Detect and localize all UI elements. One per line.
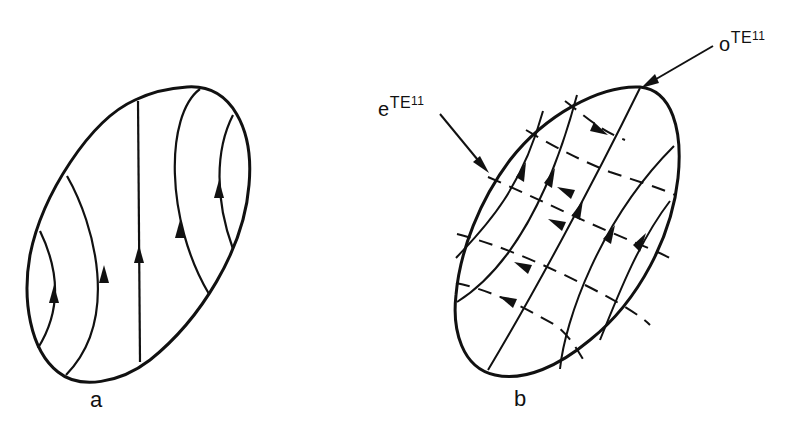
arrow-up-icon bbox=[214, 180, 224, 198]
arrow-up-left-icon bbox=[499, 296, 517, 308]
panel-b-label: b bbox=[514, 386, 526, 412]
field-line-a3 bbox=[138, 101, 140, 362]
annotation-oTE11: oTE11 bbox=[719, 33, 766, 56]
arrow-up-left-icon bbox=[514, 262, 532, 274]
arrow-up-left-icon bbox=[548, 219, 566, 231]
annotation-mode: TE11 bbox=[731, 29, 766, 46]
field-line-a1 bbox=[38, 231, 55, 348]
dashed-line-b5 bbox=[456, 283, 585, 362]
arrow-icon-oTE11 bbox=[641, 74, 659, 88]
arrow-icons-a bbox=[49, 180, 224, 303]
field-line-a5 bbox=[220, 115, 234, 249]
arrow-up-icon bbox=[49, 285, 59, 303]
panel-b bbox=[440, 46, 713, 377]
arrow-up-icon bbox=[99, 265, 109, 283]
arrow-up-icon bbox=[134, 245, 144, 263]
annotation-prefix: e bbox=[378, 98, 390, 120]
arrow-down-right-icon bbox=[590, 122, 608, 135]
solid-line-b2 bbox=[457, 95, 577, 302]
annotation-arrows bbox=[440, 46, 713, 173]
field-line-a2 bbox=[66, 176, 98, 375]
leader-line-oTE11 bbox=[651, 46, 713, 82]
field-line-a4 bbox=[175, 89, 209, 294]
dashed-line-b3 bbox=[488, 177, 673, 260]
panel-a bbox=[27, 87, 250, 382]
solid-line-b4 bbox=[560, 146, 674, 369]
panel-a-label: a bbox=[90, 387, 102, 413]
arrow-icons-b-dashed bbox=[499, 122, 608, 308]
annotation-prefix: o bbox=[719, 33, 731, 55]
waveguide-mode-diagram bbox=[0, 0, 806, 438]
solid-line-b3 bbox=[488, 88, 640, 370]
arrow-up-left-icon bbox=[557, 187, 575, 199]
annotation-eTE11: eTE11 bbox=[378, 98, 425, 121]
leader-line-eTE11 bbox=[440, 114, 482, 165]
annotation-mode: TE11 bbox=[390, 94, 425, 111]
